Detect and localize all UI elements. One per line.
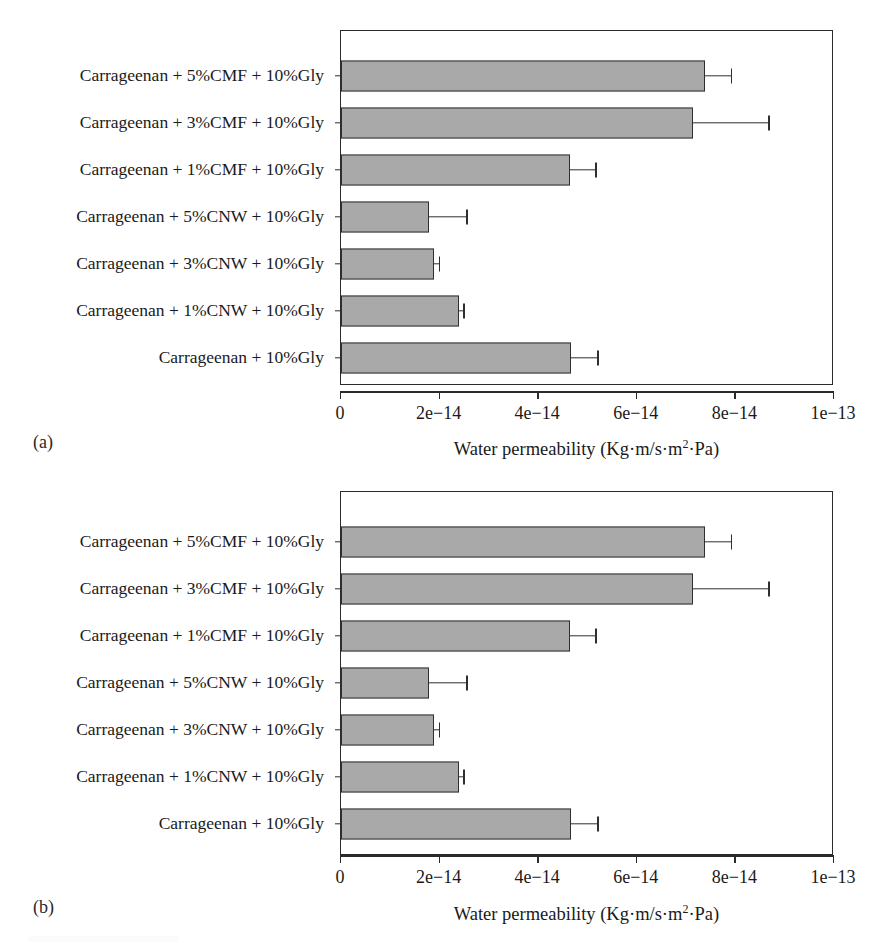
x-axis-tick-label: 0 — [336, 403, 345, 424]
y-axis-label-row: Carrageenan + 5%CNW + 10%Gly — [0, 661, 332, 703]
error-bar-cap — [768, 116, 769, 131]
y-axis-label-row: Carrageenan + 3%CMF + 10%Gly — [0, 567, 332, 609]
x-axis-tick — [734, 855, 735, 863]
x-axis-tick-label: 6e−14 — [613, 403, 658, 424]
panel-label-b: (b) — [33, 897, 54, 918]
y-axis-label-text: Carrageenan + 3%CNW + 10%Gly — [76, 253, 332, 274]
x-axis-tick — [537, 855, 538, 863]
error-bar-cap — [595, 629, 596, 644]
bar-row — [341, 337, 832, 379]
x-axis-title-text-b: Water permeability (Kg·m/s·m — [454, 904, 683, 924]
bar — [341, 574, 693, 605]
x-axis-tick-label: 8e−14 — [712, 867, 757, 888]
error-bar-cap — [597, 351, 598, 366]
bar-row — [341, 290, 832, 332]
y-axis-label-text: Carrageenan + 10%Gly — [159, 813, 332, 834]
x-axis-title-suffix-b: ·Pa) — [688, 904, 719, 924]
bar-row — [341, 756, 832, 798]
x-axis-tick — [340, 391, 341, 399]
error-bar-cap — [731, 535, 732, 550]
bar-row — [341, 709, 832, 751]
y-axis-label-text: Carrageenan + 1%CNW + 10%Gly — [76, 766, 332, 787]
x-axis-tick-label: 2e−14 — [416, 403, 461, 424]
bar-row — [341, 803, 832, 845]
error-bar-line — [705, 541, 731, 542]
error-bar-line — [429, 216, 466, 217]
x-axis-tick — [734, 391, 735, 399]
x-axis-tick — [439, 855, 440, 863]
bar — [341, 343, 571, 374]
bar-row — [341, 102, 832, 144]
y-axis-label-text: Carrageenan + 5%CNW + 10%Gly — [76, 206, 332, 227]
bar-rows-b — [341, 492, 832, 854]
x-axis-tick — [636, 855, 637, 863]
y-axis-label-row: Carrageenan + 10%Gly — [0, 336, 332, 378]
bar-row — [341, 243, 832, 285]
x-axis-ticks-b: 02e−144e−146e−148e−141e−13 — [340, 855, 833, 895]
bar-row — [341, 55, 832, 97]
x-axis-title-a: Water permeability (Kg·m/s·m2·Pa) — [340, 437, 833, 460]
error-bar-line — [429, 682, 466, 683]
x-axis-tick-label: 1e−13 — [810, 403, 855, 424]
error-bar-cap — [439, 257, 440, 272]
bar — [341, 61, 705, 92]
bar — [341, 762, 459, 793]
y-axis-label-text: Carrageenan + 3%CNW + 10%Gly — [76, 719, 332, 740]
x-axis-title-suffix-a: ·Pa) — [688, 439, 719, 459]
error-bar-line — [570, 635, 595, 636]
error-bar-line — [570, 169, 595, 170]
x-axis-tick-label: 4e−14 — [515, 867, 560, 888]
bar-row — [341, 615, 832, 657]
y-axis-label-text: Carrageenan + 3%CMF + 10%Gly — [80, 112, 332, 133]
y-axis-label-row: Carrageenan + 3%CNW + 10%Gly — [0, 708, 332, 750]
y-axis-label-row: Carrageenan + 10%Gly — [0, 802, 332, 844]
bar — [341, 155, 570, 186]
figure-panel-b: Carrageenan + 5%CMF + 10%GlyCarrageenan … — [0, 470, 895, 943]
error-bar-cap — [597, 817, 598, 832]
x-axis-tick-label: 4e−14 — [515, 403, 560, 424]
bar — [341, 202, 429, 233]
y-axis-label-text: Carrageenan + 1%CNW + 10%Gly — [76, 300, 332, 321]
panel-label-a: (a) — [33, 432, 53, 453]
bar — [341, 715, 434, 746]
error-bar-line — [571, 823, 597, 824]
bar — [341, 249, 434, 280]
x-axis-title-text-a: Water permeability (Kg·m/s·m — [454, 439, 683, 459]
x-axis-tick-label: 0 — [336, 867, 345, 888]
bar — [341, 668, 429, 699]
x-axis-tick-label: 8e−14 — [712, 403, 757, 424]
y-axis-label-row: Carrageenan + 3%CNW + 10%Gly — [0, 242, 332, 284]
error-bar-cap — [768, 582, 769, 597]
error-bar-cap — [595, 163, 596, 178]
x-axis-tick-label: 6e−14 — [613, 867, 658, 888]
error-bar-line — [705, 75, 731, 76]
y-axis-label-row: Carrageenan + 5%CMF + 10%Gly — [0, 520, 332, 562]
y-axis-label-row: Carrageenan + 1%CNW + 10%Gly — [0, 755, 332, 797]
y-axis-label-text: Carrageenan + 1%CMF + 10%Gly — [80, 159, 332, 180]
bar-row — [341, 662, 832, 704]
bar-rows-a — [341, 31, 832, 384]
y-axis-label-row: Carrageenan + 3%CMF + 10%Gly — [0, 101, 332, 143]
x-axis-tick — [439, 391, 440, 399]
bar — [341, 809, 571, 840]
y-axis-label-row: Carrageenan + 5%CNW + 10%Gly — [0, 195, 332, 237]
x-axis-tick-label: 1e−13 — [810, 867, 855, 888]
y-axis-label-row: Carrageenan + 1%CMF + 10%Gly — [0, 148, 332, 190]
bar-row — [341, 196, 832, 238]
plot-area-b — [340, 491, 833, 855]
error-bar-cap — [463, 304, 464, 319]
x-axis-tick — [833, 391, 834, 399]
x-axis-tick — [636, 391, 637, 399]
y-axis-label-row: Carrageenan + 1%CMF + 10%Gly — [0, 614, 332, 656]
figure-panel-a: Carrageenan + 5%CMF + 10%GlyCarrageenan … — [0, 0, 895, 470]
x-axis-title-b: Water permeability (Kg·m/s·m2·Pa) — [340, 902, 833, 925]
bar-row — [341, 149, 832, 191]
bar-row — [341, 521, 832, 563]
y-axis-label-text: Carrageenan + 1%CMF + 10%Gly — [80, 625, 332, 646]
plot-area-a — [340, 30, 833, 385]
error-bar-cap — [466, 676, 467, 691]
bar — [341, 296, 459, 327]
caption-cutoff-stub — [28, 936, 178, 942]
y-axis-label-text: Carrageenan + 5%CMF + 10%Gly — [80, 65, 332, 86]
y-axis-label-text: Carrageenan + 5%CNW + 10%Gly — [76, 672, 332, 693]
